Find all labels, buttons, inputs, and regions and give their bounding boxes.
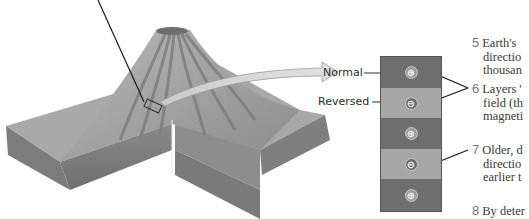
band-normal: ⊕ [381, 118, 441, 149]
minus-icon: ⊖ [405, 158, 418, 171]
band-normal: ⊕ [381, 179, 441, 211]
step-6: 6Layers ' field (th magneti [472, 82, 523, 124]
band-reversed: ⊖ [381, 88, 441, 118]
step-5: 5Earth's directio thousan [472, 36, 522, 78]
plus-icon: ⊕ [405, 189, 418, 202]
plus-icon: ⊕ [405, 66, 418, 79]
label-reversed: Reversed [318, 95, 369, 108]
polarity-column: ⊕ ⊖ ⊕ ⊖ ⊕ [380, 56, 442, 212]
volcano-block-illustration [0, 0, 529, 219]
step-8: 8By deter [472, 204, 525, 219]
plus-icon: ⊕ [405, 127, 418, 140]
step-7: 7Older, d directio earlier t [472, 143, 523, 185]
band-reversed: ⊖ [381, 149, 441, 179]
band-normal: ⊕ [381, 57, 441, 88]
minus-icon: ⊖ [405, 97, 418, 110]
label-normal: Normal [323, 66, 363, 79]
